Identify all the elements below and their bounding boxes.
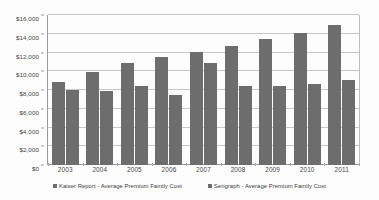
bar-group	[52, 15, 79, 165]
legend-label: Serigraph - Average Premium Family Cost	[214, 183, 326, 189]
bar	[155, 57, 168, 165]
y-axis-tick-mark	[41, 108, 44, 109]
bar	[190, 52, 203, 165]
x-axis-tick-mark	[83, 163, 84, 166]
bar	[239, 86, 252, 165]
bar	[328, 25, 341, 165]
x-axis-tick-label: 2011	[324, 166, 359, 173]
x-axis-tick-mark	[359, 163, 360, 166]
x-axis-tick-label: 2006	[152, 166, 187, 173]
bar-group	[328, 15, 355, 165]
bar	[342, 80, 355, 165]
bar-group	[121, 15, 148, 165]
x-axis-tick-mark	[117, 163, 118, 166]
legend-label: Kaiser Report - Average Premium Family C…	[59, 183, 182, 189]
y-axis: $0$2,000$4,000$6,000$8,000$10,000$12,000…	[0, 15, 44, 165]
legend-swatch-icon	[208, 184, 212, 188]
y-axis-tick-mark	[41, 146, 44, 147]
x-axis-tick-label: 2007	[186, 166, 221, 173]
y-axis-tick-mark	[41, 52, 44, 53]
bar-group	[259, 15, 286, 165]
bar	[52, 82, 65, 165]
bar-group	[155, 15, 182, 165]
legend-entry-kaiser: Kaiser Report - Average Premium Family C…	[53, 183, 182, 189]
y-axis-tick-mark	[41, 15, 44, 16]
y-axis-tick-mark	[41, 90, 44, 91]
x-axis-tick-mark	[324, 163, 325, 166]
x-axis-tick-mark	[186, 163, 187, 166]
bar	[169, 95, 182, 165]
x-axis: 200320042005200620072008200920102011	[48, 166, 359, 178]
bar	[273, 86, 286, 165]
legend-entry-serigraph: Serigraph - Average Premium Family Cost	[208, 183, 326, 189]
y-axis-tick-mark	[41, 165, 44, 166]
bar	[259, 39, 272, 165]
x-axis-tick-mark	[255, 163, 256, 166]
y-axis-tick-mark	[41, 127, 44, 128]
legend-swatch-icon	[53, 184, 57, 188]
x-axis-tick-mark	[152, 163, 153, 166]
y-axis-tick-mark	[41, 33, 44, 34]
bar	[66, 90, 79, 165]
x-axis-tick-label: 2004	[83, 166, 118, 173]
bar	[121, 63, 134, 165]
bar-group	[294, 15, 321, 165]
bar	[100, 91, 113, 165]
bar-group	[86, 15, 113, 165]
bar	[204, 63, 217, 165]
x-axis-tick-mark	[48, 163, 49, 166]
bar	[308, 84, 321, 165]
bar	[135, 86, 148, 165]
bar	[86, 72, 99, 165]
bars-layer	[48, 15, 359, 165]
x-axis-tick-label: 2008	[221, 166, 256, 173]
bar-chart: $0$2,000$4,000$6,000$8,000$10,000$12,000…	[0, 0, 379, 200]
x-axis-tick-mark	[221, 163, 222, 166]
y-axis-tick-mark	[41, 71, 44, 72]
bar-group	[225, 15, 252, 165]
chart-legend: Kaiser Report - Average Premium Family C…	[0, 180, 379, 192]
x-axis-tick-label: 2005	[117, 166, 152, 173]
x-axis-tick-label: 2009	[255, 166, 290, 173]
bar	[225, 46, 238, 165]
x-axis-tick-mark	[290, 163, 291, 166]
bar-group	[190, 15, 217, 165]
x-axis-tick-label: 2010	[290, 166, 325, 173]
x-axis-tick-label: 2003	[48, 166, 83, 173]
bar	[294, 33, 307, 165]
